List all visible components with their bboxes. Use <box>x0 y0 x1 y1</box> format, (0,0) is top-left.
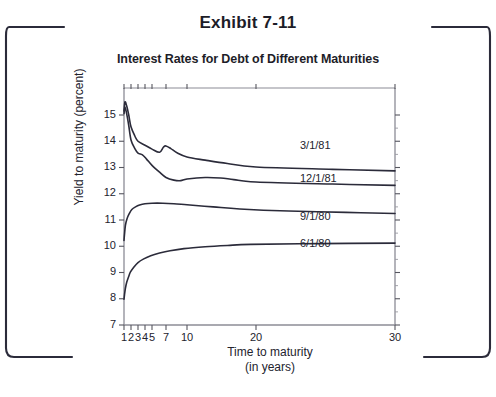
x-tick-label: 30 <box>385 331 405 343</box>
x-tick-label: 10 <box>177 331 197 343</box>
y-axis-title-wrapper: Yield to maturity (percent) <box>69 47 87 227</box>
series-label-12-1-81: 12/1/81 <box>300 172 337 184</box>
x-axis-title: Time to maturity <box>150 345 390 360</box>
y-axis-title: Yield to maturity (percent) <box>72 69 86 206</box>
y-tick-label: 7 <box>86 318 116 330</box>
series-line-9-1-80 <box>124 203 395 240</box>
y-tick-label: 12 <box>86 186 116 198</box>
y-tick-label: 15 <box>86 108 116 120</box>
y-tick-label: 8 <box>86 291 116 303</box>
x-axis-title-wrapper: Time to maturity (in years) <box>150 345 390 375</box>
series-label-6-1-80: 6/1/80 <box>300 237 331 249</box>
y-tick-label: 10 <box>86 239 116 251</box>
series-line-6-1-80 <box>124 243 395 299</box>
x-tick-label: 7 <box>156 331 176 343</box>
y-tick-label: 14 <box>86 134 116 146</box>
chart-plot-area: Yield to maturity (percent) Time to matu… <box>0 0 496 397</box>
x-tick-label: 20 <box>246 331 266 343</box>
series-label-9-1-80: 9/1/80 <box>300 210 331 222</box>
series-line-3-1-81 <box>124 102 395 171</box>
series-label-3-1-81: 3/1/81 <box>300 139 331 151</box>
y-tick-label: 9 <box>86 265 116 277</box>
y-tick-label: 11 <box>86 213 116 225</box>
y-tick-label: 13 <box>86 160 116 172</box>
x-axis-title-units: (in years) <box>150 360 390 375</box>
